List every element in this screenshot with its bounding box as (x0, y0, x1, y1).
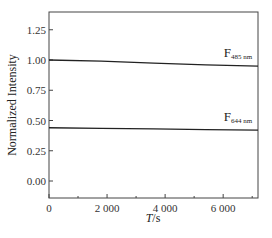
series-label: F485 nm (224, 45, 253, 61)
x-axis-label: T/s (146, 211, 161, 225)
x-tick-label: 6 000 (211, 202, 236, 214)
y-axis-label: Normalized Intensity (5, 54, 19, 156)
y-tick-label: 0.25 (27, 145, 47, 157)
plot-frame (49, 12, 258, 198)
y-tick-label: 0.00 (27, 175, 47, 187)
x-tick-label: 2 000 (95, 202, 120, 214)
y-tick-label: 1.25 (27, 24, 47, 36)
series-line (49, 60, 258, 66)
y-tick-label: 0.50 (27, 115, 47, 127)
series-line (49, 128, 258, 130)
y-tick-label: 1.00 (27, 54, 47, 66)
x-tick-label: 0 (46, 202, 52, 214)
chart-canvas: 0.000.250.500.751.001.25 02 0004 0006 00… (0, 0, 272, 238)
y-tick-label: 0.75 (27, 84, 47, 96)
series-annotations: F485 nmF644 nm (224, 45, 253, 125)
x-axis-label-unit: /s (152, 211, 160, 225)
series-label: F644 nm (224, 109, 253, 125)
